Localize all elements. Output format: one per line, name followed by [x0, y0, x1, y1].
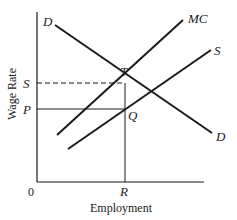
supply-label: S	[214, 43, 221, 58]
x-axis-title: Employment	[90, 201, 153, 215]
point-t-label: T	[120, 64, 128, 79]
supply-curve	[68, 50, 211, 149]
x-mark-r-label: R	[119, 184, 128, 199]
y-mark-p-label: P	[22, 102, 31, 117]
marginal-cost-label: MC	[187, 11, 208, 26]
demand-label-bottom: D	[215, 129, 226, 144]
point-q-label: Q	[128, 108, 138, 123]
origin-label: 0	[28, 185, 34, 199]
labor-market-diagram: D D MC S T Q S P R 0 Employment Wage Rat…	[0, 0, 237, 220]
y-mark-s-label: S	[23, 76, 30, 91]
y-axis-title: Wage Rate	[5, 68, 19, 120]
demand-label-top: D	[42, 14, 53, 29]
